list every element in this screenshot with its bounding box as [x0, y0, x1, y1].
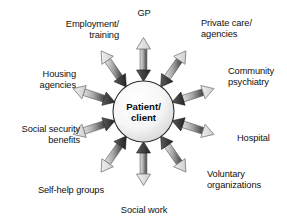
arrow-head-outward-gp	[137, 38, 151, 50]
spoke-arrow-voluntary-organizations	[161, 136, 186, 172]
arrow-head-outward-hospital	[201, 124, 214, 137]
spoke-label-private-care-agencies: Private care/ agencies	[201, 18, 273, 39]
patient-client-network-diagram: GPPrivate care/ agenciesCommunity psychi…	[0, 0, 287, 224]
spoke-arrow-private-care-agencies	[161, 51, 186, 87]
spoke-label-community-psychiatry: Community psychiatry	[228, 66, 287, 87]
spoke-label-employment-training: Employment/ training	[47, 19, 119, 40]
arrow-head-outward-community-psychiatry	[201, 86, 214, 99]
center-label: Patient/ client	[109, 101, 179, 123]
spoke-label-social-security-benefits: Social security benefits	[4, 124, 80, 145]
spoke-label-social-work: Social work	[112, 205, 176, 216]
spoke-arrow-gp	[137, 38, 151, 82]
arrow-head-inward-social-work	[137, 142, 151, 154]
spoke-label-gp: GP	[129, 8, 159, 19]
spoke-label-hospital: Hospital	[237, 133, 287, 144]
spoke-arrow-self-help-groups	[101, 136, 126, 172]
spoke-arrow-social-work	[137, 142, 151, 186]
spoke-arrow-employment-training	[101, 51, 126, 87]
spoke-label-self-help-groups: Self-help groups	[28, 185, 104, 196]
arrow-head-inward-gp	[137, 70, 151, 82]
arrow-head-outward-social-work	[137, 174, 151, 186]
spoke-label-voluntary-organizations: Voluntary organizations	[207, 169, 285, 190]
spoke-label-housing-agencies: Housing agencies	[20, 69, 76, 90]
